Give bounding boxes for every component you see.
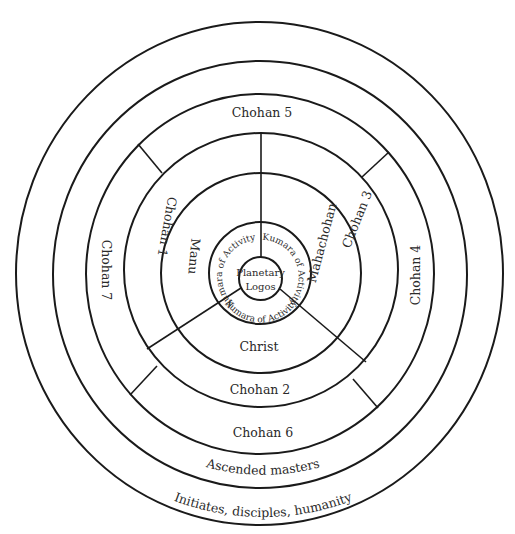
chohan-5-label: Chohan 5 (232, 105, 293, 120)
manu-label: Manu (185, 238, 203, 276)
chohan-4-label: Chohan 4 (408, 245, 423, 306)
planetary-logos-label-1: Planetary (236, 267, 285, 278)
christ-label: Christ (239, 339, 278, 354)
hierarchy-diagram: Planetary Logos Kumara of Activity Kumar… (0, 0, 515, 534)
divider-lower-right (353, 379, 378, 408)
divider-lower-left (130, 366, 157, 395)
chohan-3-label: Chohan 3 (339, 188, 376, 250)
divider-upper-right (362, 152, 389, 177)
planetary-logos-label-2: Logos (245, 281, 275, 292)
chohan-2-label: Chohan 2 (230, 382, 291, 397)
chohan-6-label: Chohan 6 (233, 425, 294, 440)
ascended-masters-label: Ascended masters (204, 455, 321, 478)
mahachohan-label: Mahachohan (304, 201, 340, 284)
divider-upper-left (138, 144, 162, 173)
chohan-7-label: Chohan 7 (99, 240, 114, 301)
chohan-1-label: Chohan 1 (155, 196, 180, 258)
ring-planetary-logos (239, 257, 282, 300)
